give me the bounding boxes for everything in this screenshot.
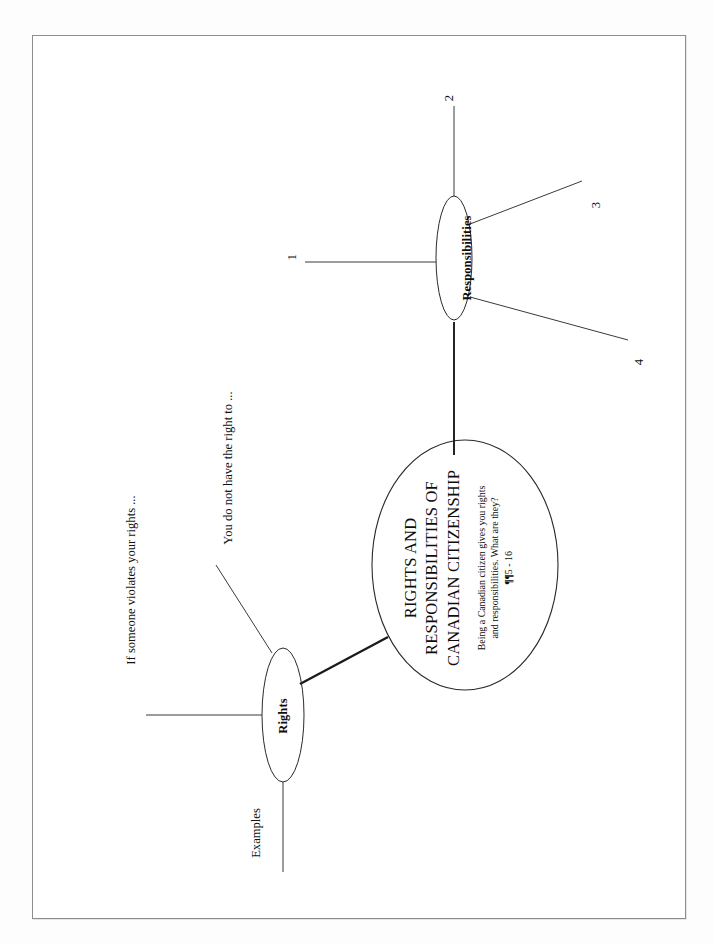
central-topic-text: RIGHTS AND RESPONSIBILITIES OF CANADIAN …	[357, 468, 557, 668]
central-topic-title: RIGHTS AND RESPONSIBILITIES OF CANADIAN …	[400, 470, 464, 666]
central-topic-reference: ¶¶5 - 16	[503, 551, 514, 585]
branch-label-you-do-not-have-the-right-to: You do not have the right to ...	[221, 370, 237, 566]
branch-label-responsibility-1: 1	[285, 249, 301, 265]
central-topic-title-line-3: CANADIAN CITIZENSHIP	[443, 470, 464, 666]
branch-label-responsibility-4: 4	[632, 354, 648, 370]
scanned-page-background: RIGHTS AND RESPONSIBILITIES OF CANADIAN …	[0, 0, 713, 945]
branch-label-responsibility-2: 2	[442, 90, 458, 106]
central-topic-title-line-2: RESPONSIBILITIES OF	[421, 470, 442, 666]
central-topic-subtitle: Being a Canadian citizen gives you right…	[475, 486, 501, 651]
pilcrow-icon: ¶¶	[503, 574, 514, 585]
central-topic-title-line-1: RIGHTS AND	[400, 470, 421, 666]
node-label-responsibilities: Responsibilities	[460, 190, 476, 326]
central-topic-subtitle-line-1: Being a Canadian citizen gives you right…	[475, 486, 488, 651]
branch-label-examples: Examples	[249, 798, 265, 868]
branch-label-responsibility-3: 3	[589, 197, 605, 213]
central-topic-subtitle-line-2: and responsibilities. What are they?	[488, 486, 501, 651]
central-topic-reference-range: 5 - 16	[503, 551, 514, 574]
branch-label-if-someone-violates-your-rights: If someone violates your rights ...	[124, 485, 140, 675]
node-label-rights: Rights	[276, 681, 292, 751]
